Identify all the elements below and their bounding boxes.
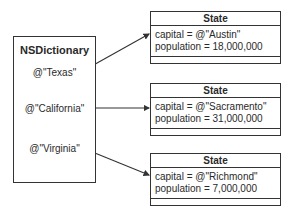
state-box-texas: State capital = @"Austin" population = 1… (150, 11, 281, 64)
state-attributes: capital = @"Richmond" population = 7,000… (151, 168, 280, 199)
state-title: State (151, 84, 280, 98)
state-methods-section (151, 129, 280, 135)
state-methods-section (151, 199, 280, 205)
state-title: State (151, 154, 280, 168)
key-virginia: @"Virginia" (14, 143, 95, 154)
state-attributes: capital = @"Sacramento" population = 31,… (151, 98, 280, 129)
population-value: population = 18,000,000 (155, 41, 280, 53)
key-texas: @"Texas" (14, 67, 95, 78)
key-california: @"California" (14, 103, 95, 114)
capital-value: capital = @"Austin" (155, 29, 280, 41)
population-value: population = 7,000,000 (155, 183, 280, 195)
state-attributes: capital = @"Austin" population = 18,000,… (151, 26, 280, 57)
state-box-virginia: State capital = @"Richmond" population =… (150, 153, 281, 206)
nsdictionary-title: NSDictionary (14, 44, 95, 56)
population-value: population = 31,000,000 (155, 113, 280, 125)
state-box-california: State capital = @"Sacramento" population… (150, 83, 281, 136)
state-methods-section (151, 57, 280, 63)
capital-value: capital = @"Sacramento" (155, 101, 280, 113)
nsdictionary-box: NSDictionary @"Texas" @"California" @"Vi… (13, 36, 96, 183)
capital-value: capital = @"Richmond" (155, 171, 280, 183)
state-title: State (151, 12, 280, 26)
